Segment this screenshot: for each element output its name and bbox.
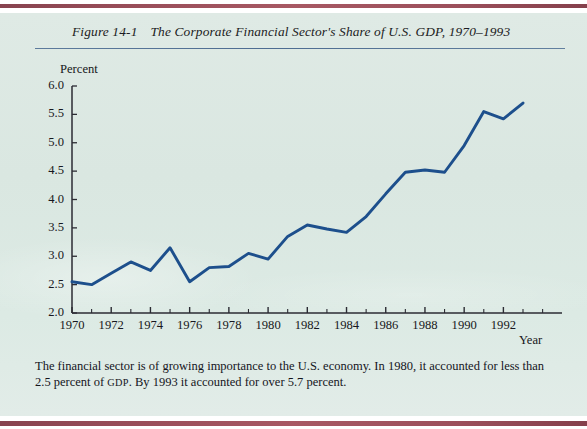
caption-gdp-smallcaps: GDP (107, 377, 129, 388)
gdp-share-line (72, 103, 523, 285)
axis-tick-marks (72, 86, 543, 313)
chart: Percent Year 6.05.55.04.54.03.53.02.52.0… (0, 0, 587, 403)
figure-page: Figure 14-1The Corporate Financial Secto… (0, 0, 587, 429)
figure-caption: The financial sector is of growing impor… (35, 359, 562, 390)
scan-edge-band-bottom (0, 421, 587, 426)
plot-canvas (0, 0, 587, 403)
axis-lines (72, 86, 562, 313)
caption-part-2: . By 1993 it accounted for over 5.7 perc… (129, 375, 347, 389)
